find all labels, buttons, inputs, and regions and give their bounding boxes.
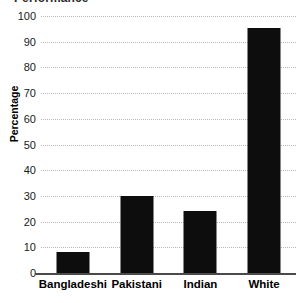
bar: [248, 28, 281, 273]
bar: [184, 211, 217, 273]
y-tick-label: 60: [24, 113, 36, 125]
bar-series: [41, 16, 296, 273]
x-axis-line: [35, 273, 296, 275]
y-tick-label: 80: [24, 61, 36, 73]
bar-slot: [169, 16, 233, 273]
x-category-label: White: [248, 278, 279, 290]
y-tick-label: 50: [24, 139, 36, 151]
y-tick-label: 30: [24, 190, 36, 202]
y-axis-title: Percentage: [8, 66, 20, 162]
x-category-label: Pakistani: [111, 278, 162, 290]
y-tick-label: 20: [24, 216, 36, 228]
y-tick-label: 40: [24, 164, 36, 176]
bar-slot: [41, 16, 105, 273]
bar: [120, 196, 153, 273]
y-tick-label: 90: [24, 36, 36, 48]
y-tick-label: 100: [18, 10, 36, 22]
bar-slot: [105, 16, 169, 273]
bar: [56, 252, 89, 273]
y-tick-label: 10: [24, 241, 36, 253]
x-category-label: Bangladeshi: [39, 278, 107, 290]
plot-area: 0102030405060708090100 BangladeshiPakist…: [41, 16, 296, 273]
chart-title: Performance: [14, 0, 88, 5]
bar-slot: [232, 16, 296, 273]
x-category-label: Indian: [183, 278, 217, 290]
y-tick-label: 70: [24, 87, 36, 99]
